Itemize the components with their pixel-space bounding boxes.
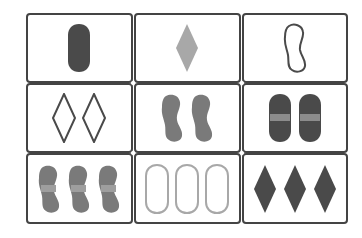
card-r1c2[interactable] (134, 13, 241, 83)
diamond-icon (83, 94, 105, 142)
grid-junction (240, 151, 244, 155)
card-r1c1[interactable] (26, 13, 133, 83)
oval-icon (176, 165, 198, 213)
stripe-band (270, 114, 290, 121)
stripe-band (41, 185, 56, 192)
stripe-band (101, 185, 116, 192)
squiggle-icon (192, 95, 212, 142)
oval-symbol-group (268, 93, 322, 143)
squiggle-symbol-group (37, 164, 121, 214)
grid-junction (131, 81, 135, 85)
grid-junction (131, 151, 135, 155)
oval-icon (68, 24, 90, 72)
diamond-symbol-group (253, 164, 337, 214)
oval-icon (146, 165, 168, 213)
card-r2c3[interactable] (242, 83, 348, 153)
oval-icon (269, 94, 291, 142)
squiggle-icon (284, 25, 304, 72)
diamond-icon (53, 94, 75, 142)
squiggle-symbol-group (283, 23, 307, 73)
grid-junction (240, 81, 244, 85)
card-r3c3[interactable] (242, 153, 348, 224)
diamond-icon (176, 24, 198, 72)
oval-icon (206, 165, 228, 213)
diamond-icon (284, 165, 306, 213)
card-board (25, 13, 348, 224)
card-r3c1[interactable] (26, 153, 133, 224)
stripe-band (71, 185, 86, 192)
oval-symbol-group (67, 23, 91, 73)
stripe-band (300, 114, 320, 121)
card-r2c2[interactable] (134, 83, 241, 153)
squiggle-icon (39, 165, 59, 212)
diamond-symbol-group (52, 93, 106, 143)
card-r1c3[interactable] (242, 13, 348, 83)
squiggle-icon (162, 95, 182, 142)
diamond-icon (254, 165, 276, 213)
squiggle-icon (99, 165, 119, 212)
card-r2c1[interactable] (26, 83, 133, 153)
card-r3c2[interactable] (134, 153, 241, 224)
squiggle-icon (69, 165, 89, 212)
diamond-symbol-group (175, 23, 199, 73)
oval-icon (299, 94, 321, 142)
squiggle-symbol-group (160, 93, 214, 143)
diamond-icon (314, 165, 336, 213)
oval-symbol-group (145, 164, 229, 214)
